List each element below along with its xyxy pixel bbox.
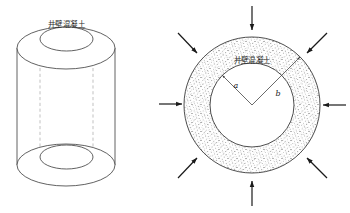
outer-radius-label: b <box>275 89 280 98</box>
cylinder-top-inner-ellipse <box>40 27 93 51</box>
load-arrow-top-right <box>307 33 327 53</box>
load-arrow-bottom-left <box>178 158 197 178</box>
load-arrow-bottom-right <box>307 158 327 178</box>
cylinder-bottom-inner-ellipse <box>40 145 93 169</box>
left-panel-concrete-label: 井壁混凝土 <box>48 19 86 29</box>
load-arrow-top-left <box>178 33 197 53</box>
left-cylinder-panel: 井壁混凝土 <box>17 19 115 186</box>
technical-diagram-svg: 井壁混凝土 a b 井壁混凝土 <box>0 0 350 213</box>
inner-radius-label: a <box>234 81 239 90</box>
right-annulus-panel: a b 井壁混凝土 <box>159 6 346 206</box>
figure-root: 井壁混凝土 a b 井壁混凝土 <box>0 0 350 213</box>
right-panel-concrete-label: 井壁混凝土 <box>234 55 272 65</box>
